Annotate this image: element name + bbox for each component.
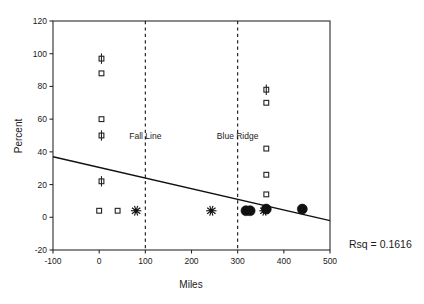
chart-background	[0, 0, 424, 304]
y-tick-label: 0	[42, 212, 47, 222]
y-tick-label: 100	[33, 49, 47, 59]
y-tick-label: 20	[38, 180, 48, 190]
y-axis-title: Percent	[13, 119, 24, 154]
rsq-annotation: Rsq = 0.1616	[349, 238, 412, 250]
x-tick-label: 0	[97, 256, 102, 266]
reference-line-label: Blue Ridge	[217, 131, 259, 141]
y-tick-label: -20	[35, 245, 48, 255]
y-tick-label: 120	[33, 16, 47, 26]
x-tick-label: 100	[138, 256, 152, 266]
x-tick-label: 300	[231, 256, 245, 266]
data-point-marker	[297, 204, 307, 214]
scatter-plot-figure: -20020406080100120 -1000100200300400500 …	[0, 0, 424, 304]
marker-core	[209, 209, 213, 213]
y-tick-label: 60	[38, 114, 48, 124]
chart-canvas: -20020406080100120 -1000100200300400500 …	[0, 0, 424, 304]
x-tick-label: -100	[44, 256, 61, 266]
data-point-marker	[245, 206, 255, 216]
x-tick-label: 200	[184, 256, 198, 266]
marker-filled-circle	[245, 206, 255, 216]
y-tick-label: 80	[38, 81, 48, 91]
reference-line-label: Fall Line	[129, 131, 161, 141]
marker-core	[134, 209, 138, 213]
marker-filled-circle	[297, 204, 307, 214]
x-tick-label: 400	[277, 256, 291, 266]
y-tick-label: 40	[38, 147, 48, 157]
x-axis-title: Miles	[179, 279, 202, 290]
x-tick-label: 500	[323, 256, 337, 266]
